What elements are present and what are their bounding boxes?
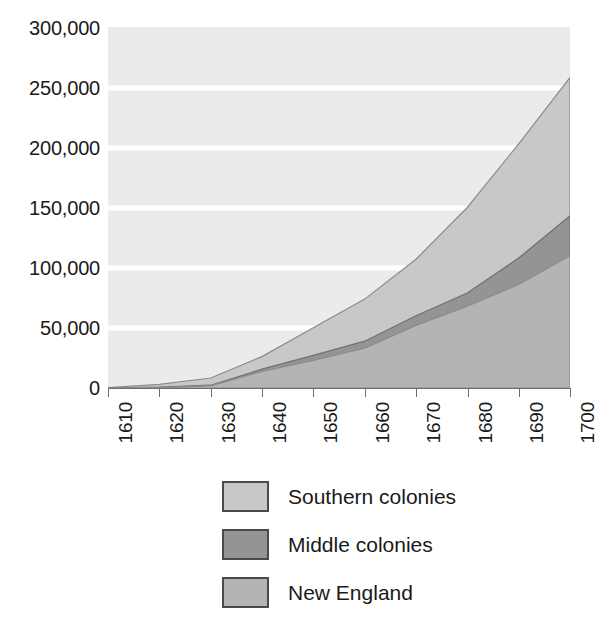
- x-tick-label: 1620: [167, 402, 186, 443]
- x-tick-label: 1680: [476, 402, 495, 443]
- x-tick-mark: [570, 388, 571, 397]
- x-axis: 1610 1620 1630 1640 1650 1660 1670 1680 …: [0, 388, 589, 478]
- legend-swatch-new-england: [222, 577, 269, 608]
- x-tick-mark: [365, 388, 366, 397]
- x-tick-label: 1640: [270, 402, 289, 443]
- x-tick-mark: [211, 388, 212, 397]
- y-tick-label: 50,000: [0, 318, 100, 338]
- legend-label: Middle colonies: [288, 534, 433, 555]
- x-tick-mark: [468, 388, 469, 397]
- y-tick-label: 150,000: [0, 198, 100, 218]
- legend-item-middle-colonies: Middle colonies: [222, 524, 552, 564]
- legend-swatch-middle-colonies: [222, 529, 269, 560]
- x-tick-label: 1610: [116, 402, 135, 443]
- plot-area: [108, 27, 570, 388]
- legend-label: New England: [288, 582, 413, 603]
- legend-item-southern-colonies: Southern colonies: [222, 476, 552, 516]
- x-tick-label: 1660: [373, 402, 392, 443]
- legend-swatch-southern-colonies: [222, 481, 269, 512]
- x-tick-mark: [313, 388, 314, 397]
- x-tick-label: 1630: [219, 402, 238, 443]
- stacked-area-plot: [108, 27, 570, 388]
- x-tick-label: 1690: [527, 402, 546, 443]
- legend-item-new-england: New England: [222, 572, 552, 612]
- x-tick-label: 1670: [424, 402, 443, 443]
- x-tick-mark: [159, 388, 160, 397]
- x-tick-mark: [416, 388, 417, 397]
- x-tick-label: 1650: [321, 402, 340, 443]
- y-tick-label: 100,000: [0, 258, 100, 278]
- y-tick-label: 300,000: [0, 18, 100, 38]
- x-tick-mark: [262, 388, 263, 397]
- x-tick-label: 1700: [578, 402, 597, 443]
- legend-label: Southern colonies: [288, 486, 456, 507]
- y-tick-label: 250,000: [0, 78, 100, 98]
- y-tick-label: 200,000: [0, 138, 100, 158]
- chart-legend: Southern colonies Middle colonies New En…: [222, 476, 552, 618]
- y-axis: 300,000 250,000 200,000 150,000 100,000 …: [0, 0, 100, 420]
- x-tick-mark: [108, 388, 109, 397]
- x-tick-mark: [519, 388, 520, 397]
- area-series-group: [108, 78, 570, 388]
